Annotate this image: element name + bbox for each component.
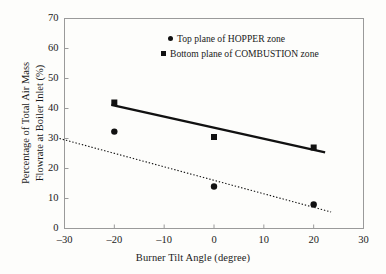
x-tick-label: –10	[144, 234, 184, 245]
legend-item-label: Bottom plane of COMBUSTION zone	[170, 46, 319, 61]
legend-item: Bottom plane of COMBUSTION zone	[161, 46, 319, 61]
circle-marker-icon	[168, 36, 173, 41]
trendlines	[60, 105, 332, 212]
x-tick-label: 0	[194, 234, 234, 245]
x-tick-label: 10	[244, 234, 284, 245]
data-point-square	[211, 134, 217, 140]
x-tick-label: –30	[45, 234, 85, 245]
x-axis-title: Burner Tilt Angle (degree)	[0, 252, 386, 263]
x-tick-label: –20	[94, 234, 134, 245]
legend-item: Top plane of HOPPER zone	[168, 31, 319, 46]
data-point-square	[311, 145, 317, 151]
data-point-circle	[111, 128, 117, 134]
trendline-dotted	[60, 139, 332, 213]
chart-legend: Top plane of HOPPER zoneBottom plane of …	[168, 31, 319, 61]
data-point-circle	[211, 183, 217, 189]
y-axis-title-line1: Percentage of Total Air Mass	[19, 13, 33, 233]
data-point-square	[111, 100, 117, 106]
legend-item-label: Top plane of HOPPER zone	[177, 31, 285, 46]
x-tick-label: 20	[294, 234, 334, 245]
y-axis-title: Percentage of Total Air Mass Flowrate at…	[19, 13, 49, 233]
square-marker-icon	[161, 51, 166, 56]
y-axis-title-line2: Flowrate at Boiler Inlet (%)	[33, 13, 47, 233]
chart-figure: 010203040506070–30–20–100102030 Burner T…	[0, 0, 386, 274]
x-tick-label: 30	[344, 234, 384, 245]
trendline-solid	[111, 105, 325, 152]
data-point-circle	[310, 201, 316, 207]
data-points	[111, 100, 317, 208]
